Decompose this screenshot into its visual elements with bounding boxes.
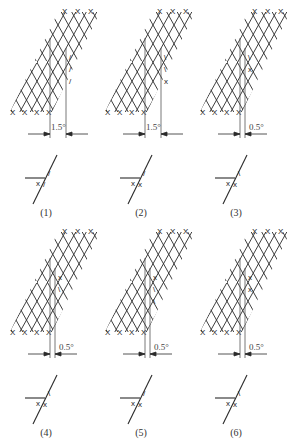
lattice-end-mark: X: [265, 227, 271, 236]
lattice-end-mark: X: [88, 227, 94, 236]
lattice-annotation-mark: /: [69, 77, 72, 86]
panel-label: (1): [40, 207, 52, 219]
lattice-end-mark: X: [75, 7, 81, 16]
lattice-end-mark: X: [34, 108, 40, 117]
lattice-end-mark: X: [22, 328, 28, 337]
lattice-end-mark: X: [10, 328, 16, 337]
lattice-end-mark: X: [117, 108, 123, 117]
lattice-end-mark: X: [265, 7, 271, 16]
lattice-end-mark: X: [157, 7, 163, 16]
lattice-end-mark: X: [212, 108, 218, 117]
lattice-end-mark: X: [212, 328, 218, 337]
panel-label: (6): [230, 427, 242, 439]
joint-symbol: [215, 375, 247, 424]
symbol-mark: /: [48, 169, 51, 178]
dimension-indicator: [28, 352, 77, 356]
lattice-end-mark: X: [157, 227, 163, 236]
lattice-end-mark: X: [170, 227, 176, 236]
lattice-end-mark: X: [105, 108, 111, 117]
lattice-end-mark: X: [278, 227, 284, 236]
figure-canvas: XXXXXXX///1.5°x//(1)XXXXXXX\\x1.5°xx/(2)…: [0, 0, 295, 448]
lattice-annotation-mark: x: [248, 273, 252, 282]
dimension-indicator: [28, 132, 88, 136]
symbol-mark: /: [143, 169, 146, 178]
dimension-indicator: [218, 132, 267, 136]
joint-symbol: [25, 155, 57, 204]
symbol-mark: x: [226, 399, 230, 408]
lattice-end-mark: X: [170, 7, 176, 16]
joint-symbol: [25, 375, 57, 424]
symbol-mark: x: [131, 399, 135, 408]
lattice-end-mark: X: [34, 328, 40, 337]
dimension-indicator: [123, 132, 183, 136]
lattice-end-mark: X: [224, 108, 230, 117]
panel-label: (5): [135, 427, 147, 439]
lattice-end-mark: X: [62, 227, 68, 236]
dimension-label: 0.5°: [249, 342, 264, 352]
lattice-end-mark: X: [129, 328, 135, 337]
lattice-end-mark: X: [141, 108, 147, 117]
dimension-indicator: [123, 352, 172, 356]
dimension-label: 0.5°: [59, 342, 74, 352]
lattice-end-mark: X: [278, 7, 284, 16]
dimension-label: 1.5°: [51, 122, 66, 132]
joint-symbol: [215, 155, 247, 204]
symbol-mark: x: [36, 179, 40, 188]
lattice-annotation-mark: x: [153, 273, 157, 282]
lattice-end-mark: X: [183, 227, 189, 236]
lattice-annotation-mark: x: [248, 65, 252, 74]
symbol-mark: x: [233, 180, 237, 189]
dimension-label: 1.5°: [146, 122, 161, 132]
lattice-annotation-mark: /: [69, 65, 72, 74]
lattice-end-mark: X: [141, 328, 147, 337]
dimension-label: 0.5°: [154, 342, 169, 352]
lattice-end-mark: X: [46, 328, 52, 337]
lattice-end-mark: X: [224, 328, 230, 337]
symbol-mark: x: [36, 399, 40, 408]
panel-label: (3): [230, 207, 242, 219]
symbol-mark: x: [138, 400, 142, 409]
lattice-end-mark: X: [129, 108, 135, 117]
lattice-end-mark: X: [46, 108, 52, 117]
joint-symbol: [120, 375, 152, 424]
lattice-annotation-mark: \: [164, 65, 167, 74]
symbol-mark: /: [43, 180, 46, 189]
lattice-end-mark: X: [200, 328, 206, 337]
panels-group: XXXXXXX///1.5°x//(1)XXXXXXX\\x1.5°xx/(2)…: [0, 0, 295, 439]
panel-label: (2): [135, 207, 147, 219]
lattice-end-mark: X: [183, 7, 189, 16]
symbol-mark: x: [131, 179, 135, 188]
joint-symbol: [120, 155, 152, 204]
lattice-end-mark: X: [105, 328, 111, 337]
lattice-end-mark: X: [117, 328, 123, 337]
lattice-end-mark: X: [252, 227, 258, 236]
lattice-end-mark: X: [22, 108, 28, 117]
lattice-end-mark: X: [236, 108, 242, 117]
symbol-mark: \: [238, 169, 241, 178]
lattice-end-mark: X: [10, 108, 16, 117]
panel-label: (4): [40, 427, 52, 439]
dimension-indicator: [218, 352, 267, 356]
symbol-mark: x: [226, 179, 230, 188]
dimension-label: 0.5°: [249, 122, 264, 132]
symbol-mark: \: [238, 389, 241, 398]
lattice-annotation-mark: x: [164, 77, 168, 86]
lattice-annotation-mark: x: [248, 285, 252, 294]
lattice-end-mark: X: [88, 7, 94, 16]
symbol-mark: x: [138, 180, 142, 189]
crosshatch-lattice: [0, 220, 295, 345]
lattice-end-mark: X: [252, 7, 258, 16]
lattice-end-mark: X: [236, 328, 242, 337]
symbol-mark: /: [143, 389, 146, 398]
lattice-annotation-mark: \: [153, 297, 156, 306]
lattice-end-mark: X: [62, 7, 68, 16]
symbol-mark: \: [48, 389, 51, 398]
lattice-annotation-mark: x: [58, 273, 62, 282]
lattice-end-mark: X: [200, 108, 206, 117]
crosshatch-lattice: [0, 0, 295, 125]
symbol-mark: x: [43, 400, 47, 409]
lattice-end-mark: X: [75, 227, 81, 236]
symbol-mark: x: [233, 400, 237, 409]
